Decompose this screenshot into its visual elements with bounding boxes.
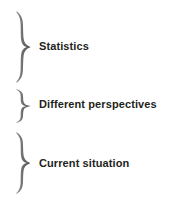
curly-brace-right-icon [14, 132, 36, 194]
brace-list-item-label: Different perspectives [39, 99, 157, 110]
brace-list-item-label: Current situation [39, 158, 129, 169]
diagram-canvas: Statistics Different perspectives [0, 0, 173, 216]
curly-brace-right-icon [14, 89, 36, 123]
curly-brace-right-icon [14, 11, 36, 83]
brace-list-item-label: Statistics [39, 41, 89, 52]
